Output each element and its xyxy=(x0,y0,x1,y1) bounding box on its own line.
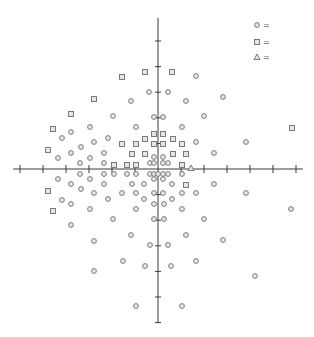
legend-label: = xyxy=(263,53,270,62)
circle-marker xyxy=(102,172,107,177)
circle-marker xyxy=(129,99,134,104)
circle-marker xyxy=(88,125,93,130)
circle-marker xyxy=(180,304,185,309)
legend-item-circle: = xyxy=(255,21,270,30)
square-marker xyxy=(51,209,56,214)
circle-marker xyxy=(166,90,171,95)
circle-marker xyxy=(60,136,65,141)
triangle-icon xyxy=(254,54,260,60)
circle-marker xyxy=(152,217,157,222)
circle-marker xyxy=(212,182,217,187)
circle-marker xyxy=(106,136,111,141)
square-marker xyxy=(184,152,189,157)
square-marker xyxy=(161,132,166,137)
circle-marker xyxy=(162,217,167,222)
circle-marker xyxy=(69,202,74,207)
circle-marker xyxy=(194,140,199,145)
circle-marker xyxy=(202,217,207,222)
square-marker xyxy=(125,163,130,168)
circle-marker xyxy=(69,223,74,228)
circle-marker xyxy=(88,156,93,161)
circle-marker xyxy=(194,74,199,79)
square-marker xyxy=(51,127,56,132)
circle-marker xyxy=(125,172,130,177)
circle-marker xyxy=(56,177,61,182)
square-marker xyxy=(152,142,157,147)
triangle-marker xyxy=(188,165,194,171)
scatter-chart: === xyxy=(0,0,314,337)
circle-marker xyxy=(180,191,185,196)
circle-marker xyxy=(244,140,249,145)
circle-marker xyxy=(161,155,166,160)
circle-marker xyxy=(92,140,97,145)
circle-marker xyxy=(161,115,166,120)
circle-marker xyxy=(148,243,153,248)
circle-marker xyxy=(92,191,97,196)
square-marker xyxy=(161,142,166,147)
circle-marker xyxy=(161,177,166,182)
circle-marker xyxy=(184,99,189,104)
circle-marker xyxy=(134,191,139,196)
circle-marker xyxy=(56,156,61,161)
circle-marker xyxy=(166,243,171,248)
square-marker xyxy=(171,152,176,157)
circle-marker xyxy=(161,161,166,166)
square-marker xyxy=(112,163,117,168)
circle-marker xyxy=(170,197,175,202)
circle-marker xyxy=(79,145,84,150)
circle-marker xyxy=(152,115,157,120)
square-marker xyxy=(152,132,157,137)
square-marker xyxy=(46,148,51,153)
square-marker xyxy=(171,137,176,142)
circle-marker xyxy=(92,269,97,274)
circle-marker xyxy=(202,114,207,119)
square-icon xyxy=(255,40,260,45)
circle-icon xyxy=(255,23,260,28)
circle-marker xyxy=(152,161,157,166)
square-marker xyxy=(134,142,139,147)
circle-marker xyxy=(60,198,65,203)
circle-marker xyxy=(142,197,147,202)
circle-marker xyxy=(106,197,111,202)
square-marker xyxy=(130,152,135,157)
square-marker xyxy=(290,126,295,131)
circle-marker xyxy=(180,172,185,177)
circle-marker xyxy=(166,172,171,177)
circle-marker xyxy=(152,155,157,160)
square-marker xyxy=(120,75,125,80)
circle-marker xyxy=(180,125,185,130)
circle-marker xyxy=(156,172,161,177)
circle-marker xyxy=(78,161,83,166)
legend-item-square: = xyxy=(255,38,270,47)
circle-marker xyxy=(152,177,157,182)
square-marker xyxy=(184,183,189,188)
legend-item-triangle: = xyxy=(254,53,270,62)
square-marker xyxy=(69,112,74,117)
circle-marker xyxy=(221,95,226,100)
square-marker xyxy=(170,70,175,75)
circle-marker xyxy=(253,274,258,279)
square-marker xyxy=(143,137,148,142)
circle-marker xyxy=(134,207,139,212)
circle-marker xyxy=(169,264,174,269)
circle-marker xyxy=(134,125,139,130)
circle-marker xyxy=(147,90,152,95)
circle-marker xyxy=(143,264,148,269)
circle-marker xyxy=(289,207,294,212)
circle-marker xyxy=(212,151,217,156)
circle-marker xyxy=(112,172,117,177)
circle-marker xyxy=(79,187,84,192)
circle-marker xyxy=(180,207,185,212)
circle-marker xyxy=(161,172,166,177)
circle-marker xyxy=(221,238,226,243)
circle-marker xyxy=(194,191,199,196)
circle-marker xyxy=(69,182,74,187)
circle-marker xyxy=(129,233,134,238)
circle-marker xyxy=(120,191,125,196)
circle-marker xyxy=(88,207,93,212)
circle-marker xyxy=(142,182,147,187)
legend-label: = xyxy=(263,38,270,47)
circle-marker xyxy=(152,191,157,196)
circle-marker xyxy=(111,217,116,222)
circle-marker xyxy=(170,182,175,187)
